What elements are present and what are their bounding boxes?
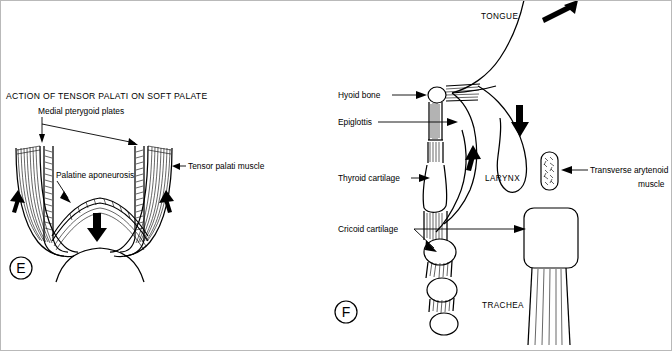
medial-pterygoid-plate-left (44, 146, 68, 256)
label-palatine-aponeurosis: Palatine aponeurosis (56, 170, 134, 180)
label-epiglottis: Epiglottis (338, 117, 372, 127)
larynx-block-inset (524, 208, 578, 345)
medial-pterygoid-plate-right (120, 146, 144, 256)
hyoid-bone-shape (428, 87, 446, 103)
panel-letter-e-text: E (16, 260, 25, 276)
panel-f-group: TONGUE (335, 0, 669, 345)
panel-e-group: ACTION OF TENSOR PALATI ON SOFT PALATE (6, 91, 265, 282)
label-medial-pterygoid-plates: Medial pterygoid plates (38, 106, 124, 116)
label-trachea: TRACHEA (482, 301, 524, 310)
panel-e-title: ACTION OF TENSOR PALATI ON SOFT PALATE (6, 91, 207, 101)
pharynx-outline (436, 86, 527, 232)
label-thyroid-cartilage: Thyroid cartilage (338, 173, 400, 183)
anatomy-figure: ACTION OF TENSOR PALATI ON SOFT PALATE (0, 0, 672, 351)
leader-hyoid-bone (392, 91, 427, 99)
trachea-rings (424, 239, 458, 335)
palatine-aponeurosis-arch (52, 198, 148, 282)
epiglottis-shape (428, 102, 443, 163)
arrow-right-upward-pull (159, 190, 174, 213)
label-tongue: TONGUE (481, 12, 518, 21)
arrow-tongue-upward-forward (542, 0, 578, 23)
arrow-larynx-upward (465, 145, 481, 171)
label-tensor-palati-muscle: Tensor palati muscle (188, 161, 265, 171)
arrow-soft-palate-downward (87, 213, 107, 242)
transverse-arytenoid-shape (541, 152, 558, 190)
label-larynx: LARYNX (485, 174, 520, 183)
panel-letter-f-text: F (342, 304, 351, 320)
label-cricoid-cartilage: Cricoid cartilage (338, 224, 398, 234)
label-hyoid-bone: Hyoid bone (338, 90, 381, 100)
leader-thyroid-cartilage (411, 174, 430, 182)
leader-cricoid-cartilage (414, 225, 526, 252)
leader-transverse-arytenoid-muscle (561, 166, 588, 174)
label-transverse-arytenoid-muscle-line1: Transverse arytenoid (590, 165, 669, 175)
arrow-pharynx-downward (511, 105, 529, 137)
leader-palatine-aponeurosis (57, 181, 71, 203)
leader-tensor-palati-muscle (172, 163, 186, 170)
panel-letter-f: F (335, 301, 357, 323)
cricoid-cartilage-shape (424, 211, 447, 242)
label-transverse-arytenoid-muscle-line2: muscle (638, 179, 665, 189)
leader-medial-pterygoid-plates (39, 117, 138, 145)
figure-canvas: ACTION OF TENSOR PALATI ON SOFT PALATE (0, 0, 672, 351)
panel-letter-e: E (10, 257, 32, 279)
leader-epiglottis (378, 118, 458, 126)
thyroid-cartilage-shape (423, 165, 447, 212)
